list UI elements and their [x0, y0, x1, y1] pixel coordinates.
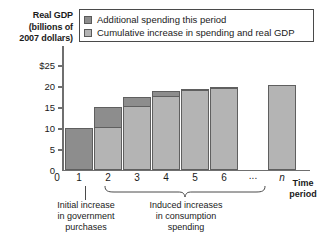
y-tick-label-15: 15: [44, 102, 55, 113]
annotation-induced-line-1: Induced increases: [140, 200, 232, 211]
legend-label-additional: Additional spending this period: [97, 14, 226, 25]
x-axis-title: Time period: [282, 178, 324, 200]
bar-period-6: [210, 87, 238, 170]
bar-cumulative-segment: [210, 87, 238, 170]
annotation-initial-line-3: purchases: [44, 222, 128, 233]
bar-cumulative-segment: [181, 89, 209, 170]
y-axis-title: Real GDP (billions of 2007 dollars): [0, 10, 73, 45]
bar-period-1: [65, 128, 93, 170]
bar-period-3: [123, 97, 151, 170]
light-swatch-icon: [84, 29, 92, 37]
x-axis-title-line-1: Time: [282, 178, 324, 189]
chart-legend: Additional spending this period Cumulati…: [79, 9, 314, 42]
x-tick-label-1: 1: [76, 172, 82, 183]
annotation-initial-increase: Initial increase in government purchases: [44, 200, 128, 233]
initial-increase-leader-line: [85, 186, 86, 200]
bar-period-5: [181, 89, 209, 170]
x-tick-label-2: 2: [105, 172, 111, 183]
y-tick-label-5: 5: [50, 144, 55, 155]
x-tick-label-ellipsis: ...: [249, 170, 257, 181]
legend-label-cumulative: Cumulative increase in spending and real…: [97, 27, 295, 38]
x-tick-label-4: 4: [163, 172, 169, 183]
y-axis-title-line-1: Real GDP: [0, 10, 73, 22]
bar-additional-segment: [94, 107, 122, 128]
y-axis-title-line-2: (billions of: [0, 22, 73, 34]
y-tick-25: [58, 65, 63, 67]
bar-cumulative-segment: [268, 85, 296, 170]
annotation-initial-line-1: Initial increase: [44, 200, 128, 211]
x-tick-label-6: 6: [221, 172, 227, 183]
bar-additional-segment: [65, 128, 93, 170]
legend-item-additional: Additional spending this period: [84, 13, 313, 26]
y-tick-5: [58, 149, 63, 151]
y-tick-label-20: 20: [44, 81, 55, 92]
x-tick-label-5: 5: [192, 172, 198, 183]
dark-swatch-icon: [84, 16, 92, 24]
bar-additional-segment: [210, 87, 238, 89]
bar-additional-segment: [152, 91, 180, 96]
plot-area: 05101520$25: [63, 57, 310, 170]
annotation-induced-increases: Induced increases in consumption spendin…: [140, 200, 232, 233]
y-tick-20: [58, 86, 63, 88]
bar-period-2: [94, 107, 122, 170]
y-tick-15: [58, 107, 63, 109]
annotation-initial-line-2: in government: [44, 211, 128, 222]
bar-additional-segment: [181, 89, 209, 92]
gdp-multiplier-bar-chart: Real GDP (billions of 2007 dollars) Addi…: [0, 0, 324, 248]
x-tick-label-3: 3: [134, 172, 140, 183]
annotation-induced-line-2: in consumption: [140, 211, 232, 222]
y-tick-label-25: $25: [39, 60, 55, 71]
bar-cumulative-segment: [152, 91, 180, 170]
bar-period-4: [152, 91, 180, 170]
y-tick-10: [58, 128, 63, 130]
bar-period-n: [268, 85, 296, 170]
y-axis-title-line-3: 2007 dollars): [0, 33, 73, 45]
bar-additional-segment: [123, 97, 151, 107]
y-tick-label-10: 10: [44, 123, 55, 134]
annotation-induced-line-3: spending: [140, 222, 232, 233]
x-axis-zero-label: 0: [54, 172, 60, 183]
x-axis-title-line-2: period: [282, 189, 324, 200]
legend-item-cumulative: Cumulative increase in spending and real…: [84, 26, 313, 39]
induced-increases-brace: [104, 185, 266, 198]
bar-cumulative-segment: [123, 97, 151, 170]
